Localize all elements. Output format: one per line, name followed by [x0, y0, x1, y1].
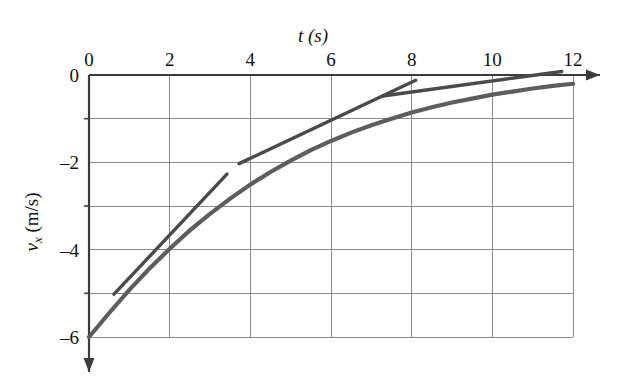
y-tick-labels: 0–2–4–6: [59, 65, 80, 348]
y-axis-title-unit: (m/s): [21, 192, 43, 237]
y-axis-title: vx (m/s): [21, 192, 45, 251]
x-tick-label: 6: [326, 49, 336, 70]
tangent-line-2: [239, 80, 416, 163]
x-tick-label: 4: [246, 49, 256, 70]
x-tick-label: 8: [407, 49, 417, 70]
x-axis-title: t (s): [298, 25, 328, 47]
x-tick-label: 2: [165, 49, 175, 70]
velocity-time-graph: 024681012 0–2–4–6 t (s) vx (m/s): [0, 0, 627, 384]
y-tick-label: –6: [59, 327, 79, 348]
svg-text:vx (m/s): vx (m/s): [21, 192, 45, 251]
x-tick-label: 0: [84, 49, 94, 70]
x-axis-arrowhead: [586, 70, 600, 81]
chart-svg: 024681012 0–2–4–6 t (s) vx (m/s): [0, 0, 627, 384]
x-tick-labels: 024681012: [84, 49, 582, 70]
tangent-lines: [114, 72, 562, 295]
x-tick-label: 10: [483, 49, 502, 70]
x-tick-label: 12: [564, 49, 583, 70]
y-axis-arrowhead: [84, 358, 95, 372]
tangent-line-1: [114, 174, 227, 294]
grid: [89, 75, 573, 337]
y-tick-label: –2: [59, 152, 79, 173]
y-tick-label: 0: [70, 65, 80, 86]
y-tick-label: –4: [59, 240, 80, 261]
